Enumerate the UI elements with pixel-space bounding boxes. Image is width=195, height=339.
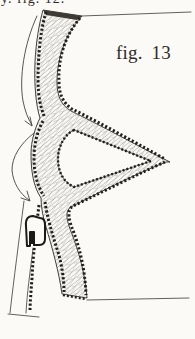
strip-right-edge <box>26 249 33 313</box>
hook-icon <box>26 216 45 246</box>
strip-bottom-cap <box>8 314 39 317</box>
top-surface-line <box>82 12 191 16</box>
strip-left-edge <box>10 201 24 313</box>
cropped-caption-above: y. fig. 12. <box>1 0 65 6</box>
scanned-page: y. fig. 12. fig. 13 <box>0 0 195 339</box>
bottom-surface-line <box>87 298 189 300</box>
fig-label: fig. 13 <box>116 42 171 63</box>
lower-curved-arrow-icon <box>12 133 34 201</box>
figure-illustration: y. fig. 12. fig. 13 <box>0 0 195 339</box>
